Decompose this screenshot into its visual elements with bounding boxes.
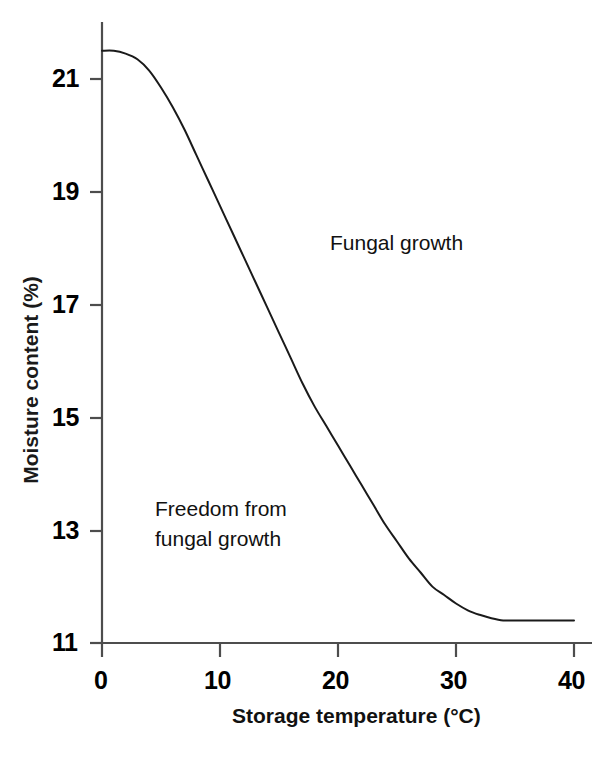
y-tick-label-11: 11 xyxy=(52,628,77,657)
y-tick-label-13: 13 xyxy=(52,516,79,545)
y-tick-label-15: 15 xyxy=(52,403,79,432)
y-tick-label-21: 21 xyxy=(52,64,79,93)
y-tick-label-19: 19 xyxy=(52,177,79,206)
x-tick-label-40: 40 xyxy=(558,666,585,695)
freedom-from-fungal-growth-label: Freedom from fungal growth xyxy=(155,494,287,555)
plot-canvas: Moisture content (%) xyxy=(0,0,616,767)
x-tick-label-10: 10 xyxy=(204,666,231,695)
y-tick-label-17: 17 xyxy=(52,290,79,319)
chart-page: Moisture content (%) 21 19 17 15 13 11 0… xyxy=(0,0,616,767)
x-tick-label-0: 0 xyxy=(94,666,107,695)
x-tick-label-30: 30 xyxy=(440,666,467,695)
y-axis-ticks xyxy=(90,79,102,643)
freedom-label-line-1: Freedom from xyxy=(155,494,287,524)
x-axis-title: Storage temperature (°C) xyxy=(232,704,481,728)
fungal-growth-label: Fungal growth xyxy=(330,228,463,258)
freedom-label-line-2: fungal growth xyxy=(155,524,287,554)
x-axis-ticks xyxy=(102,643,574,657)
x-tick-label-20: 20 xyxy=(322,666,349,695)
y-axis-title: Moisture content (%) xyxy=(19,276,42,484)
